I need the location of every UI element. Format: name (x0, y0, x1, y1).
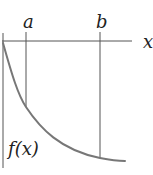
curve-label: f(x) (6, 138, 39, 159)
marker-label-b: b (96, 11, 108, 32)
marker-label-a: a (23, 11, 34, 32)
x-axis-label: x (143, 31, 153, 52)
diagram-canvas: a b x f(x) (0, 0, 153, 175)
